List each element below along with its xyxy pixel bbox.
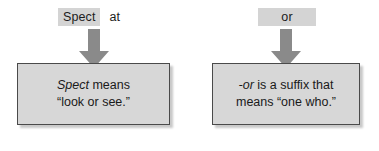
- definition-box-or: -or is a suffix that means “one who.”: [212, 63, 360, 125]
- definition-italic-term: Spect: [57, 78, 89, 92]
- definition-line: means “one who.”: [236, 94, 336, 111]
- word-line-spect: Spect at: [58, 8, 120, 26]
- definition-regular-text: means: [89, 78, 130, 92]
- highlighted-word-spect: Spect: [58, 8, 100, 26]
- panel-spect: Spect at Spect means “look or see.”: [0, 0, 190, 151]
- definition-line: Spect means: [57, 77, 130, 94]
- word-line-or: or: [258, 8, 316, 26]
- definition-regular-text: “look or see.”: [57, 95, 130, 109]
- highlighted-word-or: or: [258, 8, 316, 26]
- definition-regular-text: means “one who.”: [236, 95, 336, 109]
- word-remainder-spect: at: [100, 8, 120, 26]
- definition-italic-term: -or: [239, 78, 254, 92]
- definition-line: “look or see.”: [57, 94, 130, 111]
- definition-regular-text: is a suffix that: [254, 78, 334, 92]
- word-parts-diagram: Spect at Spect means “look or see.” or: [0, 0, 379, 151]
- definition-box-spect: Spect means “look or see.”: [17, 63, 170, 125]
- panel-or: or -or is a suffix that means “one who.”: [190, 0, 379, 151]
- definition-line: -or is a suffix that: [239, 77, 334, 94]
